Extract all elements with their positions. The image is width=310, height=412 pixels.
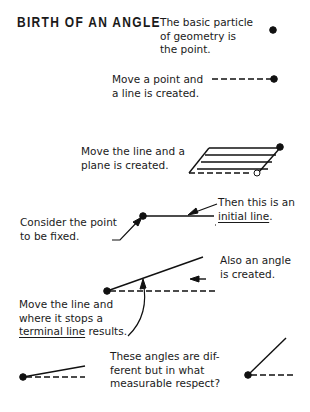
figures <box>0 0 310 412</box>
point-dot <box>270 27 277 34</box>
line-endpoint-dot <box>271 76 278 83</box>
plane-bottom-circle <box>254 170 260 176</box>
plane-top-dot <box>277 144 284 151</box>
